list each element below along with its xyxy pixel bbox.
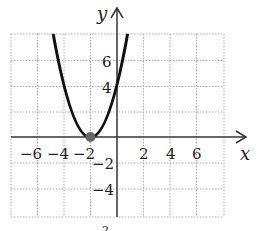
x-tick: 4 [166,145,176,163]
y-tick: 6 [102,53,112,71]
x-tick: −6 [20,145,42,163]
y-tick: 4 [102,79,112,97]
x-tick: 2 [139,145,149,163]
parabola-chart: x y −6 −4 −2 2 4 6 6 4 −2 −4 2 [0,0,263,231]
caption-fragment: 2 [102,224,109,231]
y-tick: −4 [92,181,114,199]
y-axis-label: y [96,3,108,24]
y-tick: −2 [92,155,114,173]
x-axis-label: x [240,143,250,164]
x-tick: −4 [47,145,69,163]
x-tick: 6 [192,145,202,163]
vertex-point [85,132,95,142]
